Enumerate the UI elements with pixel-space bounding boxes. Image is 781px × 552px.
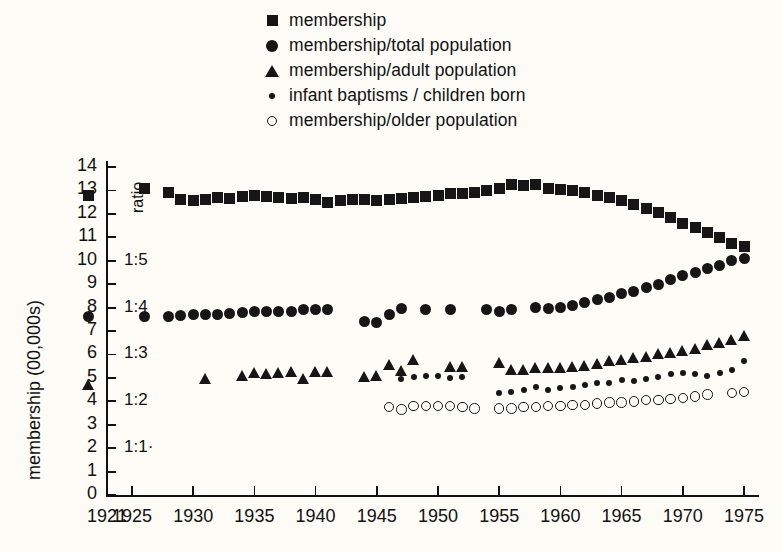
- x-tick: [682, 486, 684, 495]
- data-point-filled-square: [702, 227, 713, 238]
- data-point-filled-triangle: [554, 362, 566, 373]
- x-tick-label: 1975: [714, 506, 774, 527]
- data-point-filled-circle: [310, 304, 321, 315]
- data-point-filled-circle: [494, 306, 505, 317]
- data-point-filled-circle: [384, 309, 395, 320]
- data-point-filled-circle: [212, 309, 223, 320]
- data-point-filled-circle: [714, 260, 725, 271]
- x-tick-label: 1960: [530, 506, 590, 527]
- data-point-open-circle: [567, 400, 578, 411]
- y-tick-label: 9: [69, 272, 97, 293]
- data-point-filled-circle: [506, 304, 517, 315]
- data-point-filled-triangle: [407, 354, 419, 365]
- y-tick: [108, 166, 116, 168]
- data-point-filled-circle: [653, 279, 664, 290]
- y-axis-title: membership (00,000s): [24, 300, 45, 480]
- data-point-open-circle: [629, 396, 640, 407]
- data-point-filled-circle: [396, 303, 407, 314]
- data-point-filled-triangle: [444, 361, 456, 372]
- data-point-filled-triangle: [725, 334, 737, 345]
- data-point-filled-triangle: [615, 354, 627, 365]
- data-point-open-circle: [384, 402, 395, 413]
- data-point-filled-square: [592, 190, 603, 201]
- data-point-filled-triangle: [493, 357, 505, 368]
- data-point-filled-square: [543, 183, 554, 194]
- x-tick: [376, 486, 378, 495]
- data-point-filled-circle: [445, 304, 456, 315]
- data-point-filled-square: [310, 194, 321, 205]
- data-point-filled-square: [641, 203, 652, 214]
- data-point-filled-square: [579, 187, 590, 198]
- y-tick: [108, 471, 116, 473]
- data-point-small-dot: [631, 378, 637, 384]
- ratio-tick-label: 1:1·: [124, 437, 153, 457]
- y-tick-label: 12: [69, 202, 97, 223]
- data-point-filled-square: [163, 187, 174, 198]
- data-point-open-circle: [543, 401, 554, 412]
- data-point-filled-circle: [604, 292, 615, 303]
- data-point-filled-triangle: [260, 368, 272, 379]
- data-point-filled-square: [347, 194, 358, 205]
- x-tick-label: 1955: [469, 506, 529, 527]
- data-point-filled-triangle: [199, 373, 211, 384]
- data-point-filled-square: [677, 218, 688, 229]
- data-point-open-circle: [555, 401, 566, 412]
- data-point-small-dot: [717, 370, 723, 376]
- data-point-filled-circle: [359, 316, 370, 327]
- data-point-filled-triangle: [358, 371, 370, 382]
- data-point-filled-triangle: [285, 366, 297, 377]
- ratio-tick-label: 1:3: [124, 343, 148, 363]
- data-point-open-circle: [494, 403, 505, 414]
- data-point-filled-square: [714, 232, 725, 243]
- data-point-filled-square: [604, 192, 615, 203]
- y-tick-label: 7: [69, 319, 97, 340]
- data-point-filled-circle: [726, 255, 737, 266]
- data-point-filled-triangle: [566, 361, 578, 372]
- data-point-filled-square: [212, 192, 223, 203]
- data-point-filled-triangle: [82, 379, 94, 390]
- data-point-small-dot: [619, 377, 625, 383]
- y-tick-label: 2: [69, 436, 97, 457]
- data-point-small-dot: [643, 376, 649, 382]
- y-tick: [108, 330, 116, 332]
- y-tick: [108, 190, 116, 192]
- data-point-filled-square: [188, 195, 199, 206]
- data-point-filled-square: [420, 191, 431, 202]
- data-point-filled-circle: [188, 309, 199, 320]
- data-point-filled-square: [457, 188, 468, 199]
- data-point-filled-circle: [200, 309, 211, 320]
- ratio-tick-label: 1:2: [124, 390, 148, 410]
- y-tick: [108, 283, 116, 285]
- data-point-filled-square: [481, 185, 492, 196]
- data-point-filled-circle: [555, 302, 566, 313]
- data-point-filled-square: [371, 195, 382, 206]
- data-point-filled-triangle: [517, 364, 529, 375]
- data-point-filled-square: [322, 197, 333, 208]
- x-tick: [254, 486, 256, 495]
- data-point-filled-triangle: [578, 360, 590, 371]
- data-point-filled-square: [359, 194, 370, 205]
- data-point-open-circle: [604, 397, 615, 408]
- data-point-filled-square: [273, 192, 284, 203]
- data-point-filled-circle: [298, 304, 309, 315]
- data-point-open-circle: [396, 404, 407, 415]
- data-point-filled-square: [433, 190, 444, 201]
- data-point-filled-square: [298, 192, 309, 203]
- x-tick: [560, 486, 562, 495]
- y-tick-label: 10: [69, 249, 97, 270]
- data-point-filled-triangle: [456, 361, 468, 372]
- data-point-filled-circle: [286, 306, 297, 317]
- data-point-filled-square: [616, 195, 627, 206]
- data-point-open-circle: [739, 387, 750, 398]
- data-point-filled-square: [494, 183, 505, 194]
- x-tick-label: 1945: [347, 506, 407, 527]
- data-point-filled-square: [83, 190, 94, 201]
- data-point-filled-triangle: [713, 337, 725, 348]
- data-point-small-dot: [570, 384, 576, 390]
- y-tick: [108, 494, 116, 496]
- data-point-filled-square: [261, 191, 272, 202]
- data-point-small-dot: [692, 371, 698, 377]
- x-tick-label: 1935: [224, 506, 284, 527]
- data-point-filled-triangle: [529, 362, 541, 373]
- data-point-filled-triangle: [640, 351, 652, 362]
